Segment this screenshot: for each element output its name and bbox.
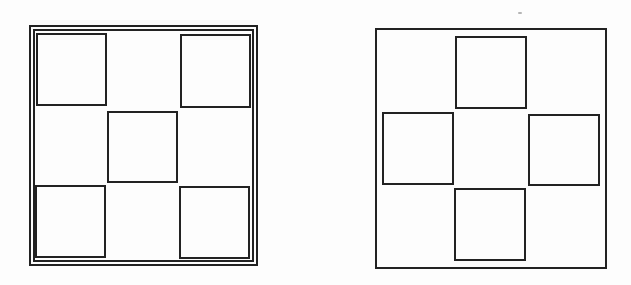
- scan-speck: [518, 12, 522, 14]
- right-figure-square-right: [528, 114, 600, 186]
- right-figure-square-left: [382, 112, 454, 185]
- diagram-canvas: [0, 0, 631, 285]
- right-figure-square-bottom: [454, 188, 526, 261]
- left-figure-square-center: [107, 111, 178, 183]
- left-figure-square-top-right: [180, 34, 251, 108]
- right-figure-square-top: [455, 36, 527, 109]
- left-figure-square-bottom-right: [179, 186, 250, 259]
- left-figure-square-bottom-left: [35, 185, 106, 258]
- left-figure-square-top-left: [36, 33, 107, 106]
